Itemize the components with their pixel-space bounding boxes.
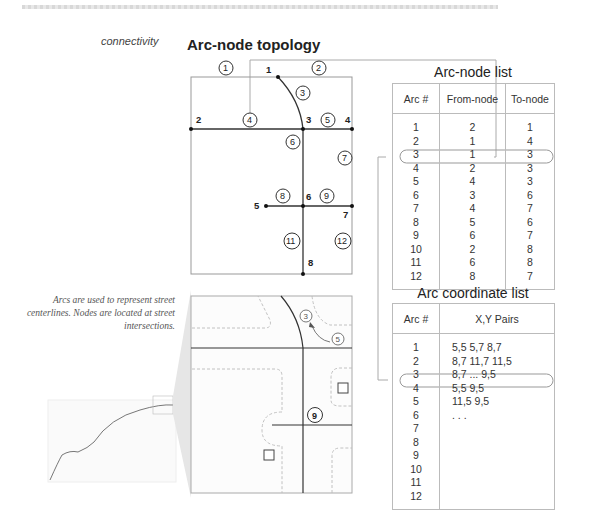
node-labels: 1 2 3 4 5 6 7 8 (196, 64, 351, 268)
column-header: To-node (506, 84, 555, 114)
svg-text:11: 11 (286, 236, 295, 246)
table-row: 313 (393, 148, 555, 162)
table-cell: 4 (440, 202, 506, 216)
table-cell: 7 (393, 202, 440, 216)
column-header: Arc # (393, 84, 440, 114)
table-row: 10 (393, 463, 555, 477)
arc-labels: 1 2 3 4 5 6 7 8 9 11 12 (219, 61, 352, 249)
table-cell: 7 (506, 229, 555, 243)
table-cell: 9 (393, 449, 440, 463)
svg-text:12: 12 (337, 236, 347, 246)
svg-text:5: 5 (254, 200, 260, 211)
table-cell: 2 (440, 162, 506, 176)
table-cell: 8 (393, 436, 440, 450)
table-cell: 1 (440, 135, 506, 149)
table-cell: 1 (506, 114, 555, 135)
svg-text:3: 3 (306, 114, 311, 125)
table-cell: 4 (393, 382, 440, 396)
table-cell (440, 436, 555, 450)
table-cell: 8 (393, 216, 440, 230)
table-row: 11 (393, 476, 555, 490)
table-row: 121 (393, 114, 555, 135)
svg-text:6: 6 (306, 191, 311, 202)
table-cell: 5 (440, 216, 506, 230)
table-cell: 8,7 ... 9,5 (440, 368, 555, 382)
table-cell: 5,5 5,7 8,7 (440, 334, 555, 355)
table-row: 636 (393, 189, 555, 203)
table-cell: 1 (440, 148, 506, 162)
table-cell: 10 (393, 463, 440, 477)
svg-text:2: 2 (196, 114, 201, 125)
table-row: 9 (393, 449, 555, 463)
table-row: 6. . . (393, 409, 555, 423)
table-cell: 11 (393, 476, 440, 490)
svg-text:6: 6 (290, 137, 295, 147)
svg-text:4: 4 (345, 114, 351, 125)
table-cell: 3 (506, 148, 555, 162)
table-cell: 3 (440, 189, 506, 203)
table-cell: 5,5 9,5 (440, 382, 555, 396)
svg-text:8: 8 (308, 257, 313, 268)
caption-text: Arcs are used to represent street center… (20, 294, 175, 333)
table-cell: 2 (440, 114, 506, 135)
svg-text:4: 4 (247, 115, 252, 125)
svg-text:3: 3 (304, 312, 309, 321)
table-cell: 12 (393, 490, 440, 510)
svg-text:5: 5 (325, 115, 330, 125)
table-row: 214 (393, 135, 555, 149)
table-cell (440, 490, 555, 510)
table-cell (440, 422, 555, 436)
arc-coordinate-table: Arc # X,Y Pairs 15,5 5,7 8,728,7 11,7 11… (392, 303, 555, 510)
table-cell: 3 (506, 175, 555, 189)
table-cell: 5 (393, 395, 440, 409)
arc-node-list-title: Arc-node list (392, 64, 554, 80)
table-cell: 5 (393, 175, 440, 189)
table-cell: 3 (393, 368, 440, 382)
svg-text:5: 5 (336, 335, 341, 344)
table-cell: 8 (506, 243, 555, 257)
svg-text:7: 7 (342, 153, 347, 163)
column-header: X,Y Pairs (440, 304, 555, 334)
table-row: 856 (393, 216, 555, 230)
table-cell: 4 (393, 162, 440, 176)
table-cell: 8,7 11,7 11,5 (440, 355, 555, 369)
table-cell (440, 476, 555, 490)
table-cell: 11,5 9,5 (440, 395, 555, 409)
topology-diagram: 1 2 3 4 5 6 7 8 1 2 3 4 5 6 7 8 9 11 12 (189, 61, 354, 276)
table-cell: 6 (440, 256, 506, 270)
arc-node-table: Arc # From-node To-node 1212143134235436… (392, 83, 555, 290)
table-row: 1028 (393, 243, 555, 257)
table-cell: 9 (393, 229, 440, 243)
table-row: 423 (393, 162, 555, 176)
arc-coordinate-list-title: Arc coordinate list (392, 285, 554, 301)
street-map: 3 5 9 (191, 296, 352, 493)
table-row: 967 (393, 229, 555, 243)
svg-text:8: 8 (280, 191, 285, 201)
svg-text:1: 1 (223, 63, 228, 73)
svg-text:9: 9 (312, 411, 317, 421)
table-cell: 2 (393, 135, 440, 149)
table-row: 7 (393, 422, 555, 436)
table-row: 12 (393, 490, 555, 510)
table-row: 1168 (393, 256, 555, 270)
table-row: 543 (393, 175, 555, 189)
table-row: 38,7 ... 9,5 (393, 368, 555, 382)
table-row: 511,5 9,5 (393, 395, 555, 409)
svg-text:7: 7 (343, 209, 348, 220)
table-cell: 3 (393, 148, 440, 162)
table-row: 45,5 9,5 (393, 382, 555, 396)
table-cell: 8 (506, 256, 555, 270)
table-row: 15,5 5,7 8,7 (393, 334, 555, 355)
table-row: 8 (393, 436, 555, 450)
table-cell (440, 463, 555, 477)
table-cell: 6 (440, 229, 506, 243)
table-cell: 2 (393, 355, 440, 369)
svg-text:3: 3 (300, 88, 305, 98)
table-cell: . . . (440, 409, 555, 423)
column-header: Arc # (393, 304, 440, 334)
table-cell (440, 449, 555, 463)
table-cell: 6 (506, 216, 555, 230)
table-cell: 6 (506, 189, 555, 203)
table-cell: 10 (393, 243, 440, 257)
table-row: 28,7 11,7 11,5 (393, 355, 555, 369)
